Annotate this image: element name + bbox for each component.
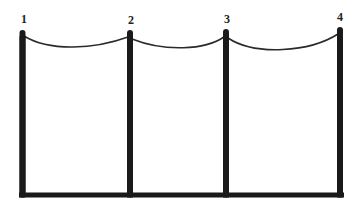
pole-cable-diagram: 1 2 3 4 [0,0,364,211]
cable-2-3 [132,37,224,48]
diagram-drawing [0,0,364,211]
pole-label-1: 1 [21,13,27,25]
pole-1-shaft [20,36,26,198]
cable-1-2 [24,36,128,47]
pole-4-shaft [337,33,343,198]
cables [24,34,338,50]
base-beam [19,193,344,198]
structure [19,27,344,198]
pole-label-2: 2 [128,14,134,26]
pole-label-4: 4 [337,11,343,23]
cable-3-4 [228,34,338,50]
pole-2-shaft [127,36,133,198]
pole-3-shaft [223,35,229,198]
pole-label-3: 3 [224,13,230,25]
